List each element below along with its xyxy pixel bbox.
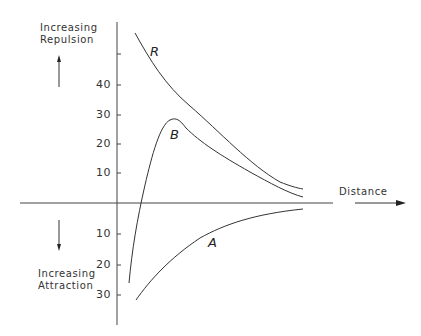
up-arrowhead-icon <box>57 55 61 62</box>
attraction-label-line2: Attraction <box>38 280 93 292</box>
attraction-label-line1: Increasing <box>38 268 96 280</box>
distance-arrowhead-icon <box>396 200 406 206</box>
down-arrowhead-icon <box>57 244 61 251</box>
curve-label-a: A <box>208 235 217 250</box>
curve-r <box>135 33 303 189</box>
curve-b <box>129 119 303 283</box>
tick-label-p30: 30 <box>89 108 111 121</box>
repulsion-label-line2: Repulsion <box>40 34 94 46</box>
tick-label-n10: 10 <box>89 227 111 240</box>
curve-a <box>136 209 303 300</box>
tick-label-p10: 10 <box>89 166 111 179</box>
tick-label-p20: 20 <box>89 137 111 150</box>
y-ticks <box>117 54 121 295</box>
tick-label-n20: 20 <box>89 258 111 271</box>
repulsion-label-line1: Increasing <box>40 22 98 34</box>
distance-label: Distance <box>339 186 388 198</box>
curve-label-r: R <box>150 44 159 59</box>
tick-label-p40: 40 <box>89 78 111 91</box>
curve-label-b: B <box>170 127 179 142</box>
tick-label-n30: 30 <box>89 288 111 301</box>
